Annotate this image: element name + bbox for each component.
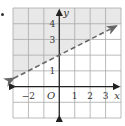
y-tick-label: 1 [50,66,56,76]
shaded-region [13,8,121,118]
origin-label: O [47,90,55,101]
x-tick-label: −2 [22,91,35,101]
x-tick-label: 3 [103,91,109,101]
x-tick-label: 1 [72,91,78,101]
coordinate-plane: −2123134Oxy [0,0,125,126]
x-tick-label: 2 [87,91,93,101]
y-tick-label: 4 [50,19,56,29]
y-axis-label: y [62,7,69,18]
x-axis-label: x [114,90,120,101]
y-tick-label: 3 [50,35,56,45]
